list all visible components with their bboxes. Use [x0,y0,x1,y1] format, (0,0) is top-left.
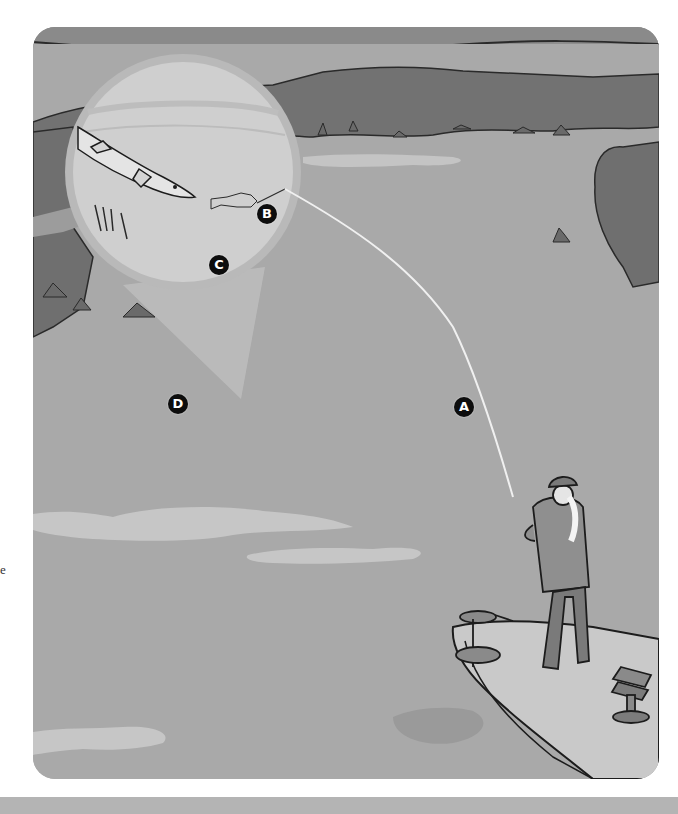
marker-c: C [209,255,229,275]
marker-d: D [168,394,188,414]
fishing-illustration: A B C D [33,27,659,779]
marker-a: A [454,397,474,417]
marker-b: B [257,204,277,224]
cropped-caption-fragment: e [0,562,6,578]
inset-water [73,62,293,282]
scene-artwork [33,27,659,779]
bottom-bar [0,797,678,814]
